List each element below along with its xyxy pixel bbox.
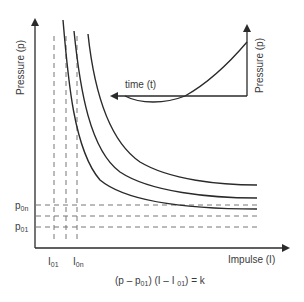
p0n-label: p0n <box>15 200 28 212</box>
curve-1 <box>63 20 257 209</box>
p01-label: p01 <box>15 221 28 233</box>
x-axis-label: Impulse (I) <box>228 254 275 265</box>
inset-pressure-time <box>112 26 247 102</box>
i01-label: I01 <box>48 256 59 268</box>
iso-damage-curves <box>63 20 257 209</box>
inset-time-label: time (t) <box>125 79 156 90</box>
y-axis-label: Pressure (p) <box>15 40 26 95</box>
equation: (p – p01) (I – I 01) = k <box>115 275 206 287</box>
curve-3 <box>88 34 257 185</box>
pressure-impulse-diagram: Pressure (p) Impulse (I) time (t) Pressu… <box>0 0 304 302</box>
inset-pressure-label: Pressure (p) <box>254 38 265 93</box>
impulse-asymptotes <box>54 36 77 242</box>
inset-pulse-curve <box>125 42 247 102</box>
i0n-label: I0n <box>73 256 84 268</box>
